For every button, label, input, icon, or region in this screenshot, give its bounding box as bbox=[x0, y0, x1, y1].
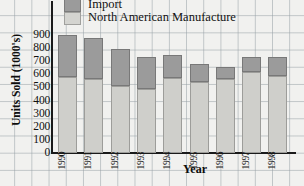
y-axis-tick-label: 400 bbox=[2, 95, 50, 107]
bar-1991[interactable]: 1991 bbox=[84, 38, 103, 153]
y-axis-tick-label: 800 bbox=[2, 42, 50, 54]
x-axis-tick-label: 1997 bbox=[242, 133, 252, 169]
y-axis-tick-label: 300 bbox=[2, 108, 50, 120]
bar-1992[interactable]: 1992 bbox=[111, 49, 130, 153]
bar-1995[interactable]: 1995 bbox=[190, 64, 209, 153]
bar-1997[interactable]: 1997 bbox=[242, 57, 261, 153]
bar-1990[interactable]: 1990 bbox=[58, 35, 77, 153]
bar-segment-import[interactable] bbox=[111, 49, 130, 86]
bar-segment-import[interactable] bbox=[84, 38, 103, 79]
x-axis-tick-label: 1998 bbox=[268, 133, 278, 169]
y-axis-tick-label: 900 bbox=[2, 29, 50, 41]
y-axis-tick-label: 600 bbox=[2, 68, 50, 80]
bar-1993[interactable]: 1993 bbox=[137, 57, 156, 153]
bar-segment-import[interactable] bbox=[163, 55, 182, 78]
y-axis-tick-label: 0 bbox=[2, 147, 50, 159]
y-axis-tick-label: 500 bbox=[2, 81, 50, 93]
bar-segment-import[interactable] bbox=[137, 57, 156, 88]
legend-label: North American Manufacture bbox=[88, 11, 236, 24]
y-axis-tick-label: 200 bbox=[2, 121, 50, 133]
bar-1994[interactable]: 1994 bbox=[163, 55, 182, 153]
bar-1996[interactable]: 1996 bbox=[216, 67, 235, 153]
x-axis-tick-label: 1990 bbox=[58, 133, 68, 169]
y-axis-tick-label: 100 bbox=[2, 134, 50, 146]
x-axis-tick-label: 1993 bbox=[136, 133, 146, 169]
stacked-bar-chart: Units Sold (1000's) 01002003004005006007… bbox=[0, 0, 304, 186]
legend-swatch-icon bbox=[64, 12, 81, 25]
x-axis-tick-label: 1992 bbox=[110, 133, 120, 169]
bar-segment-import[interactable] bbox=[216, 67, 235, 79]
bar-segment-import[interactable] bbox=[190, 64, 209, 82]
bar-segment-import[interactable] bbox=[58, 35, 77, 77]
bar-1998[interactable]: 1998 bbox=[268, 57, 287, 153]
x-axis-tick-label: 1991 bbox=[84, 133, 94, 169]
bar-segment-import[interactable] bbox=[268, 57, 287, 77]
x-axis-title: Year bbox=[150, 162, 240, 177]
y-axis-tick-label: 700 bbox=[2, 55, 50, 67]
legend-swatch-icon bbox=[64, 0, 81, 12]
y-axis-tick-labels: 0100200300400500600700800900 bbox=[0, 0, 50, 186]
bar-segment-import[interactable] bbox=[242, 57, 261, 72]
